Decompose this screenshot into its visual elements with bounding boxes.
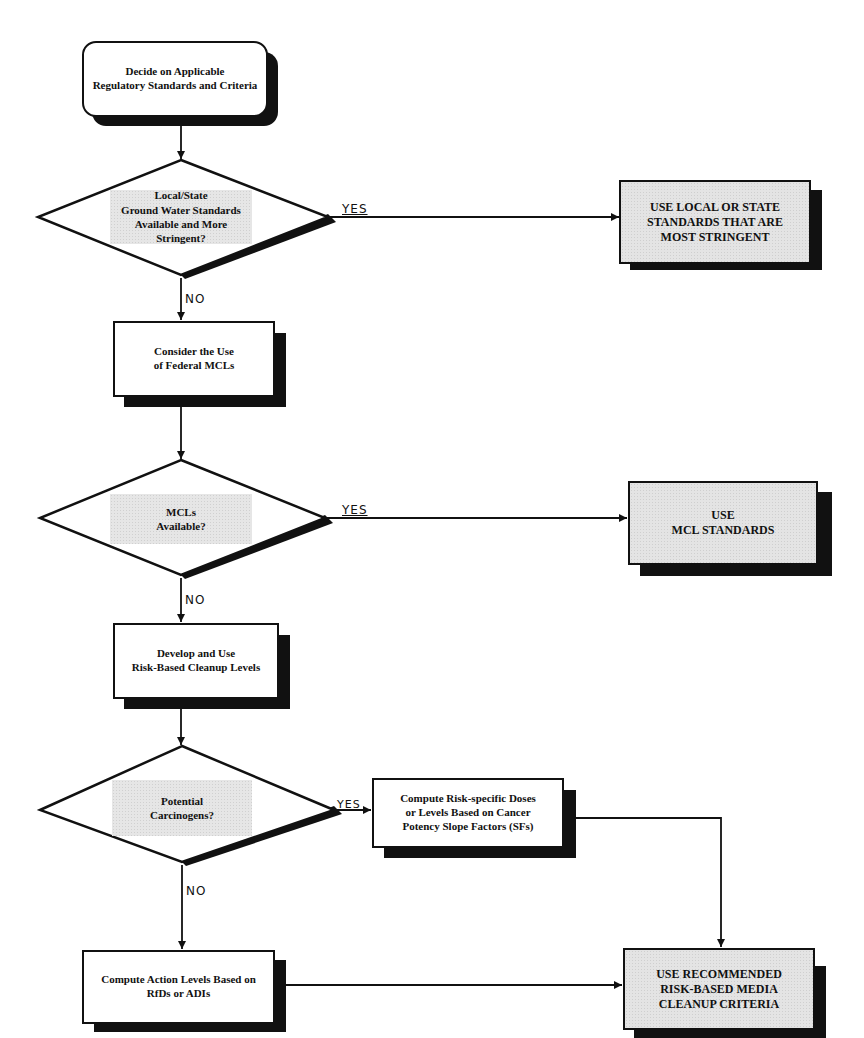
decision-carcinogens-text: Potential Carcinogens?: [112, 780, 252, 836]
no-label: NO: [185, 292, 205, 306]
decision-local-state-text: Local/State Ground Water Standards Avail…: [110, 190, 252, 244]
compute-risk-box: Compute Risk-specific Doses or Levels Ba…: [372, 778, 564, 848]
start-terminal: Decide on Applicable Regulatory Standard…: [82, 41, 268, 117]
develop-risk-box: Develop and Use Risk-Based Cleanup Level…: [113, 623, 279, 699]
use-recommended-box: USE RECOMMENDED RISK-BASED MEDIA CLEANUP…: [623, 948, 815, 1030]
edge-risk-to-recommended: [574, 818, 721, 947]
yes-label: YES: [337, 798, 361, 811]
use-local-state-box: USE LOCAL OR STATE STANDARDS THAT ARE MO…: [619, 180, 811, 264]
yes-label: YES: [342, 202, 368, 216]
use-mcl-box: USE MCL STANDARDS: [628, 481, 818, 565]
yes-label: YES: [342, 503, 368, 517]
no-label: NO: [185, 593, 205, 607]
decision-mcls-text: MCLs Available?: [110, 494, 252, 544]
compute-action-box: Compute Action Levels Based on RfDs or A…: [82, 950, 275, 1024]
no-label: NO: [186, 884, 206, 898]
consider-mcls-box: Consider the Use of Federal MCLs: [113, 321, 275, 397]
